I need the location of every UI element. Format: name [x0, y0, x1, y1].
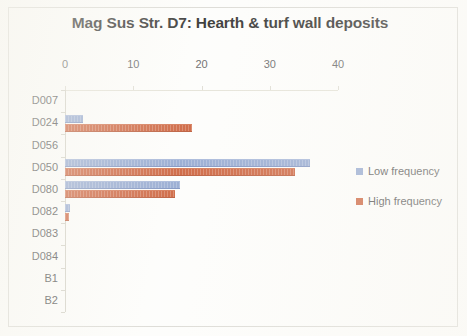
x-axis-line	[65, 90, 338, 91]
x-tick-label-40: 40	[318, 58, 358, 70]
x-tick-mark-30	[270, 86, 271, 90]
legend-label-high-frequency: High frequency	[368, 195, 442, 207]
x-tick-label-0: 0	[45, 58, 85, 70]
y-axis-label-D050: D050	[0, 162, 58, 173]
y-tick-mark-2	[61, 134, 65, 135]
x-tick-mark-0	[65, 86, 66, 90]
y-tick-mark-0	[61, 90, 65, 91]
legend-entry-low-frequency: Low frequency	[356, 163, 460, 179]
x-tick-mark-40	[338, 86, 339, 90]
y-axis-label-D080: D080	[0, 184, 58, 195]
y-axis-label-B2: B2	[0, 295, 58, 306]
bar-D024-low-frequency	[65, 115, 83, 123]
y-tick-mark-6	[61, 223, 65, 224]
x-tick-label-10: 10	[113, 58, 153, 70]
chart-figure: Mag Sus Str. D7: Hearth & turf wall depo…	[0, 0, 467, 336]
x-tick-mark-20	[202, 86, 203, 90]
x-tick-label-20: 20	[182, 58, 222, 70]
x-tick-label-30: 30	[250, 58, 290, 70]
bar-D050-high-frequency	[65, 168, 295, 176]
y-tick-mark-1	[61, 112, 65, 113]
bar-D082-low-frequency	[65, 204, 70, 212]
y-axis-label-D083: D083	[0, 228, 58, 239]
y-tick-mark-10	[61, 312, 65, 313]
chart-title: Mag Sus Str. D7: Hearth & turf wall depo…	[20, 14, 440, 32]
y-axis-label-D082: D082	[0, 206, 58, 217]
y-axis-label-D056: D056	[0, 140, 58, 151]
bar-D082-high-frequency	[65, 213, 69, 221]
y-axis-label-D084: D084	[0, 251, 58, 262]
y-tick-mark-3	[61, 157, 65, 158]
bar-D080-high-frequency	[65, 190, 175, 198]
y-tick-mark-8	[61, 268, 65, 269]
legend-swatch-low-frequency-icon	[356, 168, 363, 175]
y-tick-mark-4	[61, 179, 65, 180]
y-axis-label-D024: D024	[0, 117, 58, 128]
y-axis-label-B1: B1	[0, 273, 58, 284]
y-tick-mark-9	[61, 290, 65, 291]
chart-legend: Low frequency High frequency	[356, 163, 460, 223]
y-tick-mark-5	[61, 201, 65, 202]
x-tick-mark-10	[133, 86, 134, 90]
y-tick-mark-7	[61, 245, 65, 246]
bar-D050-low-frequency	[65, 159, 310, 167]
bar-D080-low-frequency	[65, 181, 180, 189]
legend-entry-high-frequency: High frequency	[356, 193, 460, 209]
bar-D024-high-frequency	[65, 124, 192, 132]
legend-label-low-frequency: Low frequency	[368, 165, 440, 177]
legend-swatch-high-frequency-icon	[356, 198, 363, 205]
y-axis-label-D007: D007	[0, 95, 58, 106]
